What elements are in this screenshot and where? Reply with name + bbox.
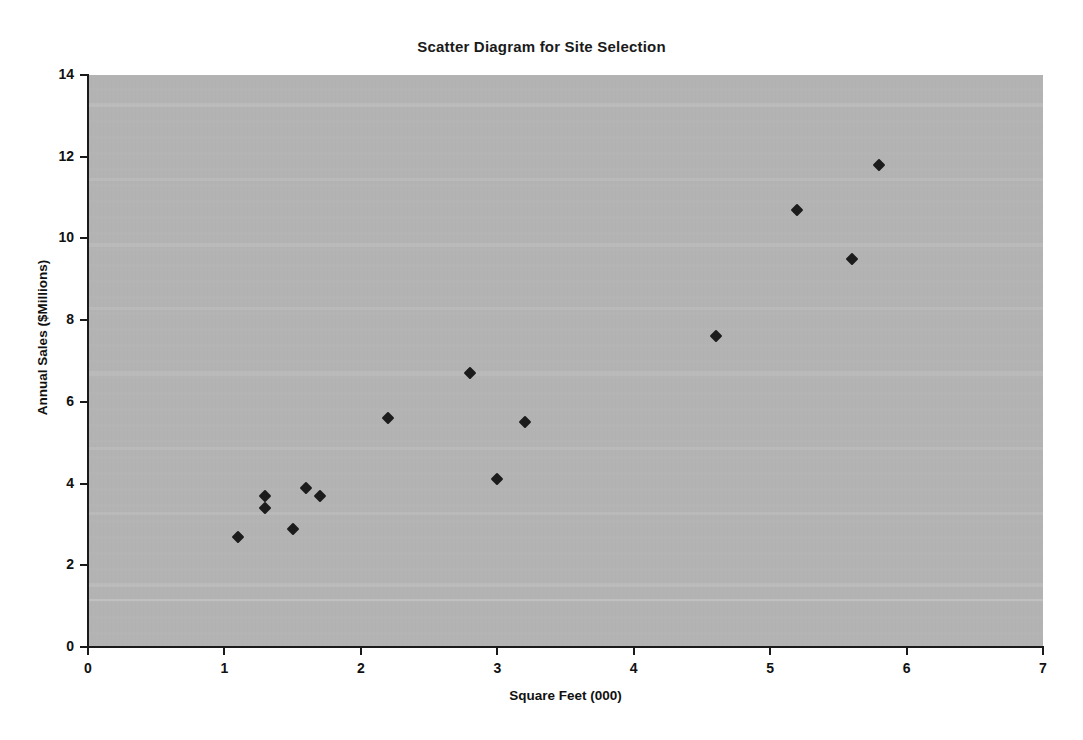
y-axis-tick-label: 14 bbox=[44, 66, 74, 82]
x-axis-tick-label: 1 bbox=[209, 660, 239, 676]
data-point bbox=[464, 367, 477, 380]
y-axis-tick-label: 2 bbox=[44, 556, 74, 572]
data-point bbox=[382, 412, 395, 425]
plot-background-texture bbox=[88, 75, 1043, 647]
y-axis-tick-label: 0 bbox=[44, 638, 74, 654]
x-axis-tick bbox=[496, 648, 498, 655]
scatter-chart: Scatter Diagram for Site Selection 02468… bbox=[0, 0, 1083, 740]
y-axis-tick bbox=[80, 74, 87, 76]
plot-area bbox=[88, 75, 1043, 647]
data-point bbox=[232, 530, 245, 543]
y-axis-line bbox=[87, 74, 89, 649]
plot-band bbox=[88, 583, 1043, 587]
plot-band bbox=[88, 103, 1043, 107]
data-point bbox=[300, 481, 313, 494]
x-axis-tick bbox=[906, 648, 908, 655]
chart-title: Scatter Diagram for Site Selection bbox=[0, 38, 1083, 55]
y-axis-tick bbox=[80, 237, 87, 239]
plot-band bbox=[88, 512, 1043, 515]
x-axis-tick-label: 5 bbox=[755, 660, 785, 676]
x-axis-line bbox=[87, 646, 1044, 648]
data-point bbox=[791, 203, 804, 216]
plot-band bbox=[88, 243, 1043, 247]
x-axis-tick-label: 3 bbox=[482, 660, 512, 676]
plot-band bbox=[88, 307, 1043, 310]
data-point bbox=[259, 502, 272, 515]
y-axis-tick bbox=[80, 646, 87, 648]
x-axis-title: Square Feet (000) bbox=[88, 688, 1043, 703]
data-point bbox=[314, 489, 327, 502]
x-axis-tick bbox=[87, 648, 89, 655]
y-axis-title: Annual Sales ($Millions) bbox=[35, 128, 50, 548]
y-axis-tick bbox=[80, 156, 87, 158]
x-axis-tick-label: 2 bbox=[346, 660, 376, 676]
x-axis-tick bbox=[223, 648, 225, 655]
plot-band bbox=[88, 371, 1043, 376]
y-axis-tick bbox=[80, 319, 87, 321]
plot-band bbox=[88, 447, 1043, 450]
x-axis-tick bbox=[360, 648, 362, 655]
x-axis-tick bbox=[633, 648, 635, 655]
x-axis-tick-label: 0 bbox=[73, 660, 103, 676]
x-axis-tick bbox=[769, 648, 771, 655]
data-point bbox=[709, 330, 722, 343]
x-axis-tick-label: 6 bbox=[892, 660, 922, 676]
x-axis-tick-label: 4 bbox=[619, 660, 649, 676]
x-axis-tick bbox=[1042, 648, 1044, 655]
data-point bbox=[873, 159, 886, 172]
data-point bbox=[286, 522, 299, 535]
data-point bbox=[518, 416, 531, 429]
y-axis-tick bbox=[80, 564, 87, 566]
y-axis-tick bbox=[80, 401, 87, 403]
plot-band bbox=[88, 178, 1043, 181]
data-point bbox=[846, 252, 859, 265]
plot-band bbox=[88, 599, 1043, 601]
data-point bbox=[491, 473, 504, 486]
data-point bbox=[259, 489, 272, 502]
y-axis-tick bbox=[80, 483, 87, 485]
x-axis-tick-label: 7 bbox=[1028, 660, 1058, 676]
